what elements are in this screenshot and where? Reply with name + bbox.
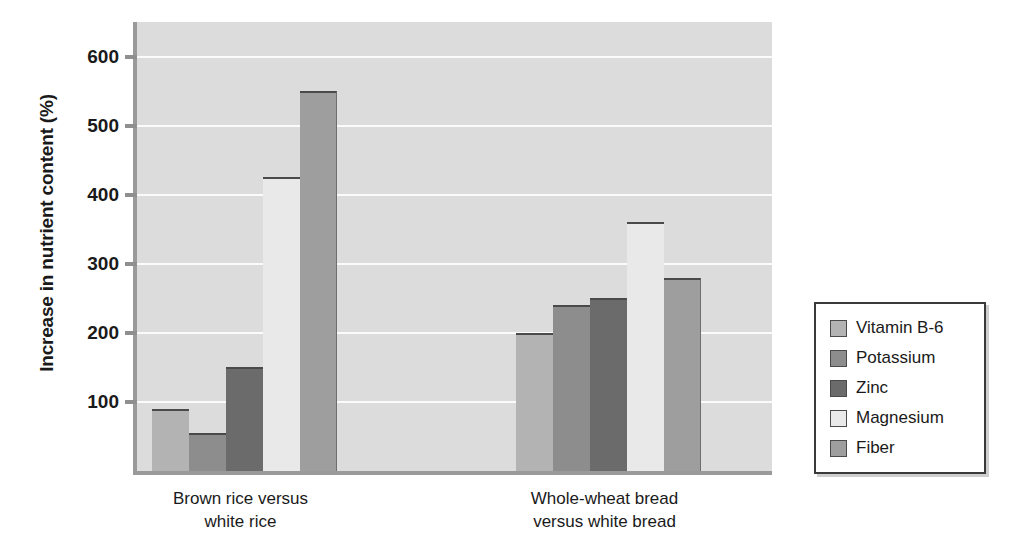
legend-swatch-icon — [830, 440, 847, 457]
legend-item[interactable]: Magnesium — [830, 403, 984, 433]
y-axis-tick-label: 400 — [61, 185, 119, 204]
y-axis-tick — [125, 55, 137, 59]
bar — [263, 177, 300, 471]
legend-item-label: Magnesium — [856, 408, 944, 428]
bar-group — [152, 22, 337, 471]
chart-legend: Vitamin B-6PotassiumZincMagnesiumFiber — [814, 302, 986, 474]
legend-item[interactable]: Zinc — [830, 373, 984, 403]
x-axis-category-label: Brown rice versuswhite rice — [101, 488, 381, 534]
legend-item-label: Vitamin B-6 — [856, 318, 944, 338]
y-axis-tick — [125, 124, 137, 128]
y-axis-tick-label: 300 — [61, 254, 119, 273]
bar — [627, 222, 664, 471]
y-axis-title: Increase in nutrient content (%) — [36, 18, 58, 448]
legend-item-label: Fiber — [856, 438, 895, 458]
y-axis-tick-label: 600 — [61, 47, 119, 66]
y-axis-tick — [125, 193, 137, 197]
category-label-line: Whole-wheat bread — [465, 488, 745, 511]
legend-swatch-icon — [830, 380, 847, 397]
bar-group — [516, 22, 701, 471]
y-axis-tick-label: 100 — [61, 392, 119, 411]
bar — [189, 433, 226, 471]
plot-inner — [137, 22, 772, 471]
y-axis-tick — [125, 331, 137, 335]
bar — [553, 305, 590, 471]
legend-item[interactable]: Fiber — [830, 433, 984, 463]
x-axis-category-label: Whole-wheat breadversus white bread — [465, 488, 745, 534]
bar — [300, 91, 337, 471]
legend-item-label: Zinc — [856, 378, 888, 398]
legend-swatch-icon — [830, 410, 847, 427]
legend-item[interactable]: Potassium — [830, 343, 984, 373]
bar — [226, 367, 263, 471]
y-axis-tick-label: 200 — [61, 323, 119, 342]
plot-area — [133, 22, 772, 475]
category-label-line: Brown rice versus — [101, 488, 381, 511]
bar — [664, 278, 701, 471]
y-axis-tick — [125, 262, 137, 266]
bar — [516, 333, 553, 471]
y-axis-tick-labels: 100200300400500600 — [57, 0, 119, 559]
legend-item[interactable]: Vitamin B-6 — [830, 313, 984, 343]
category-label-line: versus white bread — [465, 511, 745, 534]
y-axis-tick — [125, 400, 137, 404]
y-axis-tick-label: 500 — [61, 116, 119, 135]
legend-item-label: Potassium — [856, 348, 935, 368]
bar — [152, 409, 189, 471]
legend-swatch-icon — [830, 350, 847, 367]
category-label-line: white rice — [101, 511, 381, 534]
bar — [590, 298, 627, 471]
legend-swatch-icon — [830, 320, 847, 337]
